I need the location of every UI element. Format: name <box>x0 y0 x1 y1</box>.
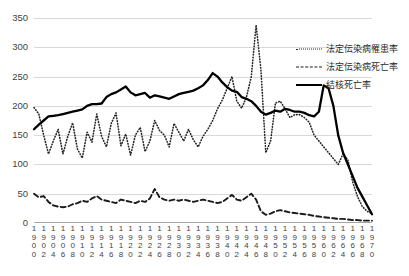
x-axis-tick-label: 1942 <box>232 225 242 259</box>
x-axis: 1900190219041906190819101912191419161918… <box>34 225 372 275</box>
chart-legend: 法定伝染病罹患率法定伝染病死亡率結核死亡率 <box>296 40 408 94</box>
series-line <box>34 189 372 221</box>
legend-item-label: 法定伝染病死亡率 <box>326 62 398 72</box>
legend-item[interactable]: 法定伝染病罹患率 <box>296 40 408 58</box>
x-axis-tick-label: 1964 <box>338 225 348 259</box>
x-axis-tick-label: 1954 <box>290 225 300 259</box>
y-axis-tick-label: 200 <box>12 101 28 111</box>
x-axis-tick-label: 1900 <box>29 225 39 259</box>
y-axis-tick-label: 250 <box>12 72 28 82</box>
legend-dotted-line-icon <box>296 44 322 54</box>
y-axis-tick-label: 50 <box>17 189 28 199</box>
legend-item-label: 法定伝染病罹患率 <box>326 44 398 54</box>
x-axis-tick-label: 1958 <box>309 225 319 259</box>
legend-item-label: 結核死亡率 <box>326 80 371 90</box>
y-axis: 050100150200250300350 <box>0 18 32 223</box>
x-axis-tick-label: 1912 <box>87 225 97 259</box>
x-axis-tick-label: 1970 <box>367 225 377 259</box>
x-axis-tick-label: 1920 <box>126 225 136 259</box>
x-axis-tick-label: 1968 <box>357 225 367 259</box>
x-axis-tick-label: 1946 <box>251 225 261 259</box>
x-axis-tick-label: 1940 <box>222 225 232 259</box>
legend-dashed-line-icon <box>296 62 322 72</box>
x-axis-tick-label: 1922 <box>135 225 145 259</box>
legend-item[interactable]: 法定伝染病死亡率 <box>296 58 408 76</box>
x-axis-tick-label: 1916 <box>106 225 116 259</box>
x-axis-tick-label: 1930 <box>174 225 184 259</box>
x-axis-tick-label: 1950 <box>270 225 280 259</box>
x-axis-tick-label: 1948 <box>261 225 271 259</box>
y-axis-tick-label: 150 <box>12 130 28 140</box>
x-axis-tick-label: 1956 <box>299 225 309 259</box>
y-axis-tick-label: 300 <box>12 43 28 53</box>
x-axis-tick-label: 1904 <box>48 225 58 259</box>
x-axis-tick-label: 1966 <box>348 225 358 259</box>
x-axis-tick-label: 1934 <box>193 225 203 259</box>
x-axis-tick-label: 1918 <box>116 225 126 259</box>
x-axis-tick-label: 1960 <box>319 225 329 259</box>
x-axis-tick-label: 1906 <box>58 225 68 259</box>
x-axis-tick-label: 1936 <box>203 225 213 259</box>
x-axis-tick-label: 1932 <box>184 225 194 259</box>
chart-container: 050100150200250300350 190019021904190619… <box>0 0 409 276</box>
x-axis-tick-label: 1952 <box>280 225 290 259</box>
y-axis-tick-label: 100 <box>12 160 28 170</box>
x-axis-tick-label: 1962 <box>328 225 338 259</box>
x-axis-tick-label: 1944 <box>241 225 251 259</box>
x-axis-tick-label: 1910 <box>77 225 87 259</box>
x-axis-tick-label: 1914 <box>97 225 107 259</box>
legend-item[interactable]: 結核死亡率 <box>296 76 408 94</box>
x-axis-tick-label: 1908 <box>68 225 78 259</box>
x-axis-tick-label: 1924 <box>145 225 155 259</box>
legend-solid-line-icon <box>296 80 322 90</box>
y-axis-tick-label: 350 <box>12 13 28 23</box>
x-axis-tick-label: 1926 <box>155 225 165 259</box>
x-axis-tick-label: 1902 <box>39 225 49 259</box>
x-axis-tick-label: 1938 <box>212 225 222 259</box>
y-axis-tick-label: 0 <box>23 218 28 228</box>
x-axis-tick-label: 1928 <box>164 225 174 259</box>
